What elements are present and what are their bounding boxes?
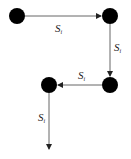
edges-layer	[0, 0, 131, 159]
edge-label-3: Si	[78, 70, 85, 82]
edge-label-1-sub: i	[61, 29, 63, 35]
node-1	[9, 8, 25, 24]
node-4	[41, 77, 57, 93]
edge-label-4: Si	[38, 112, 45, 124]
edge-label-3-sub: i	[84, 76, 86, 82]
edge-label-1: Si	[55, 23, 62, 35]
edge-label-4-sub: i	[44, 118, 46, 124]
flow-diagram: Si Si Si Si	[0, 0, 131, 159]
node-2	[102, 8, 118, 24]
node-3	[102, 77, 118, 93]
edge-label-2-sub: i	[120, 48, 122, 54]
edge-label-2: Si	[114, 42, 121, 54]
